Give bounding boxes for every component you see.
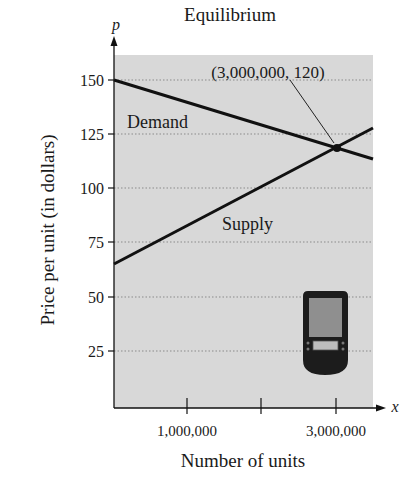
y-tick-150: 150 — [80, 72, 104, 89]
x-axis-var: x — [390, 398, 398, 415]
y-tick-125: 125 — [80, 126, 104, 143]
y-ticks — [108, 80, 114, 351]
y-tick-25: 25 — [88, 343, 104, 360]
y-tick-50: 50 — [88, 289, 104, 306]
y-axis-arrow-icon — [111, 36, 118, 46]
y-axis-title: Price per unit (in dollars) — [37, 134, 59, 325]
y-tick-100: 100 — [80, 180, 104, 197]
pda-device-icon — [303, 291, 348, 375]
x-axis-title: Number of units — [181, 450, 306, 471]
supply-label: Supply — [222, 214, 273, 234]
equilibrium-label: (3,000,000, 120) — [211, 63, 324, 82]
x-axis-arrow-icon — [376, 405, 386, 412]
x-tick-1000000: 1,000,000 — [157, 423, 217, 439]
y-tick-labels: 150 125 100 75 50 25 — [80, 72, 104, 360]
demand-label: Demand — [127, 112, 188, 132]
equilibrium-point — [333, 144, 341, 152]
y-axis-var: p — [111, 16, 120, 34]
chart-canvas: 150 125 100 75 50 25 1,000,000 3,000,000… — [0, 0, 420, 483]
x-tick-labels: 1,000,000 3,000,000 — [157, 423, 366, 439]
y-tick-75: 75 — [88, 234, 104, 251]
x-tick-3000000: 3,000,000 — [306, 423, 366, 439]
